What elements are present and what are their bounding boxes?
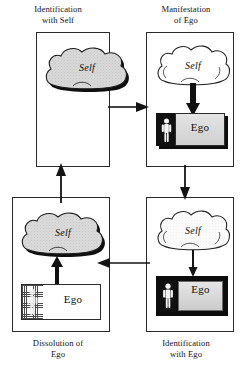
- ego-box-manifestation: Ego: [156, 113, 228, 149]
- cloud-label: Self: [43, 62, 131, 73]
- caption-line-2: Ego: [2, 349, 114, 360]
- caption-bottom-right: Identification with Ego: [130, 338, 242, 361]
- ego-label: Ego: [178, 283, 223, 295]
- ego-label: Ego: [47, 293, 99, 305]
- cloud-label: Self: [19, 227, 107, 238]
- person-figure-icon: [162, 283, 174, 309]
- caption-line-1: Dissolution of: [2, 338, 114, 349]
- person-figure-icon: [161, 118, 172, 143]
- quadrant-top-left: Self: [36, 32, 110, 167]
- caption-line-1: Identification: [2, 4, 114, 15]
- cloud-label: Self: [155, 225, 231, 236]
- arrow-down-icon: [187, 250, 199, 278]
- ego-box-identification: Ego: [156, 276, 228, 316]
- ego-box-dissolution: Ego: [21, 284, 101, 320]
- person-figure-icon: [22, 285, 43, 319]
- caption-line-2: with Ego: [130, 349, 242, 360]
- caption-top-left: Identification with Self: [2, 4, 114, 27]
- cloud-icon: Self: [19, 210, 107, 258]
- cloud-icon: Self: [155, 208, 231, 254]
- caption-top-right: Manifestation of Ego: [130, 4, 242, 27]
- arrow-up-icon: [51, 256, 63, 286]
- connector-bottom-left-to-top-left: [54, 163, 68, 203]
- figure-panel: [156, 113, 175, 146]
- figure-panel: [160, 280, 176, 312]
- caption-line-2: with Self: [2, 15, 114, 26]
- arrow-down-icon: [185, 83, 201, 117]
- cloud-icon: Self: [43, 45, 131, 93]
- ego-label: Ego: [175, 121, 225, 133]
- cloud-label: Self: [155, 60, 231, 71]
- diagram-canvas: Identification with Self Manifestation o…: [0, 0, 246, 375]
- connector-top-right-to-bottom-right: [178, 165, 192, 201]
- caption-line-2: of Ego: [130, 15, 242, 26]
- caption-line-1: Identification: [130, 338, 242, 349]
- quadrant-top-right: Self: [146, 32, 234, 167]
- connector-top-left-to-top-right: [108, 100, 150, 114]
- caption-bottom-left: Dissolution of Ego: [2, 338, 114, 361]
- caption-line-1: Manifestation: [130, 4, 242, 15]
- quadrant-bottom-right: Self: [146, 197, 234, 332]
- connector-bottom-right-to-bottom-left: [96, 256, 150, 270]
